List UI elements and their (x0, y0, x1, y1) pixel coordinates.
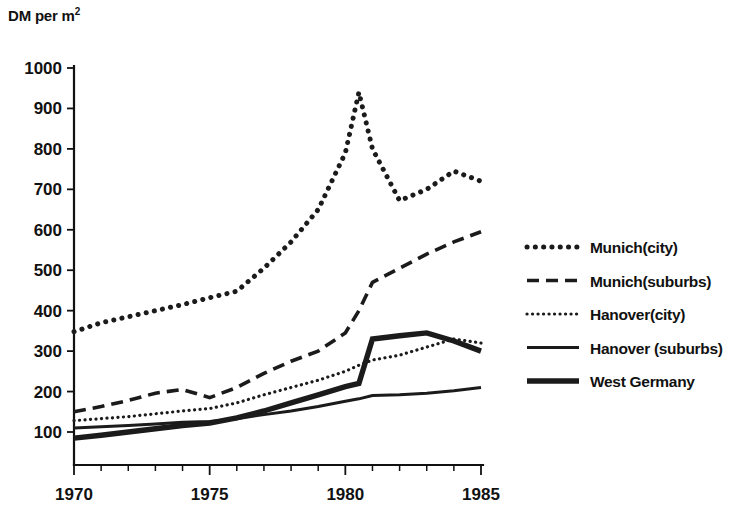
series-line-munich-city (74, 92, 481, 331)
legend-label-munich-suburbs: Munich(suburbs) (590, 273, 711, 290)
y-tick-label: 1000 (24, 59, 62, 78)
y-tick-label: 400 (34, 302, 62, 321)
plot-area (74, 92, 481, 438)
y-tick-label: 900 (34, 99, 62, 118)
y-axis-title-text: DM per m (8, 7, 75, 24)
legend-label-hanover-suburbs: Hanover (suburbs) (590, 340, 723, 357)
y-tick-label: 800 (34, 140, 62, 159)
x-tick-label: 1980 (326, 485, 364, 504)
legend-label-munich-city: Munich(city) (590, 239, 678, 256)
y-tick-label: 200 (34, 383, 62, 402)
y-tick-label: 300 (34, 342, 62, 361)
y-tick-label: 500 (34, 261, 62, 280)
y-tick-label: 700 (34, 180, 62, 199)
chart-container: DM per m2 100090080070060050040030020010… (0, 0, 745, 508)
y-tick-labels: 1000900800700600500400300200100 (24, 59, 62, 442)
y-tick-label: 600 (34, 221, 62, 240)
y-axis-title: DM per m2 (8, 6, 80, 24)
x-tick-label: 1985 (462, 485, 500, 504)
x-tick-label: 1970 (55, 485, 93, 504)
y-axis-title-superscript: 2 (75, 6, 80, 17)
chart-svg: 1000900800700600500400300200100 19701975… (0, 0, 745, 508)
chart-legend: Munich(city)Munich(suburbs)Hanover(city)… (527, 239, 723, 390)
x-tick-labels: 1970197519801985 (55, 485, 500, 504)
legend-label-west-germany: West Germany (590, 373, 695, 390)
x-tick-label: 1975 (191, 485, 229, 504)
legend-label-hanover-city: Hanover(city) (590, 306, 685, 323)
series-line-munich-suburbs (74, 232, 481, 412)
series-line-west-germany (74, 333, 481, 438)
y-tick-label: 100 (34, 423, 62, 442)
